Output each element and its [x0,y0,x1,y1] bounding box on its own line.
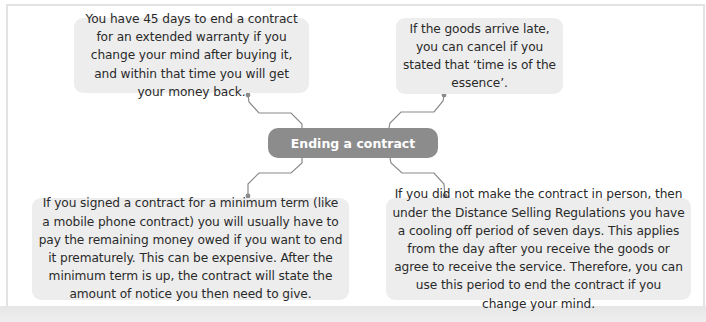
central-topic: Ending a contract [268,128,438,158]
note-top-right: If the goods arrive late, you can cancel… [396,18,563,94]
connector-top-right [389,95,444,128]
central-topic-label: Ending a contract [291,136,416,151]
note-bottom-right-text: If you did not make the contract in pers… [392,185,685,312]
note-top-left-text: You have 45 days to end a contract for a… [80,10,303,101]
note-bottom-left: If you signed a contract for a minimum t… [32,198,349,300]
note-bottom-right: If you did not make the contract in pers… [386,198,691,300]
note-bottom-left-text: If you signed a contract for a minimum t… [38,194,343,303]
connector-bottom-left [248,158,302,196]
note-top-left: You have 45 days to end a contract for a… [74,18,309,93]
note-top-right-text: If the goods arrive late, you can cancel… [402,20,557,93]
